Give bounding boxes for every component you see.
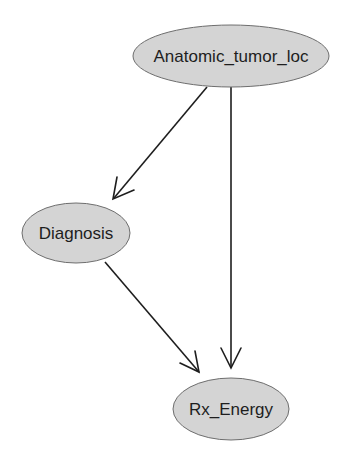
- bayesian-network-diagram: Anatomic_tumor_loc Diagnosis Rx_Energy: [0, 0, 350, 462]
- node-label: Diagnosis: [39, 224, 114, 243]
- node-label: Rx_Energy: [189, 400, 274, 419]
- node-rx-energy[interactable]: Rx_Energy: [173, 378, 289, 440]
- edge-anatomic-to-diagnosis: [113, 87, 207, 199]
- node-label: Anatomic_tumor_loc: [154, 47, 309, 66]
- edge-anatomic-to-rx-energy: [221, 87, 241, 368]
- edge-line: [105, 262, 199, 372]
- node-diagnosis[interactable]: Diagnosis: [22, 203, 130, 263]
- edge-diagnosis-to-rx-energy: [105, 262, 199, 372]
- edge-line: [114, 87, 207, 198]
- node-anatomic-tumor-loc[interactable]: Anatomic_tumor_loc: [133, 25, 329, 87]
